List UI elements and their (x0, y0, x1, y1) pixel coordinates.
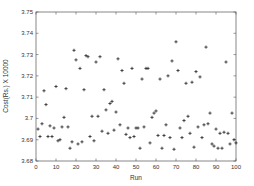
y-tick-label: 3.75 (21, 9, 33, 15)
x-tick-label: 80 (193, 164, 200, 170)
y-tick-label: 3.74 (21, 30, 33, 36)
y-tick-label: 3.7 (25, 115, 34, 121)
y-tick-label: 3.69 (21, 137, 33, 143)
x-axis-label: Run (130, 174, 142, 181)
x-tick-label: 10 (53, 164, 60, 170)
x-tick-label: 50 (133, 164, 140, 170)
plot-area (36, 12, 236, 161)
y-tick-label: 3.72 (21, 73, 33, 79)
x-tick-label: 0 (34, 164, 38, 170)
x-tick-label: 30 (93, 164, 100, 170)
x-tick-label: 60 (153, 164, 160, 170)
y-axis-label: Cost(Rs.) X 10000 (2, 59, 10, 113)
x-tick-label: 70 (173, 164, 180, 170)
y-tick-label: 3.73 (21, 52, 33, 58)
x-tick-label: 20 (73, 164, 80, 170)
x-tick-label: 100 (231, 164, 242, 170)
y-tick-label: 3.71 (21, 94, 33, 100)
x-tick-label: 90 (213, 164, 220, 170)
x-tick-label: 40 (113, 164, 120, 170)
scatter-chart: 3.683.693.73.713.723.733.743.75 01020304… (0, 0, 254, 186)
y-tick-label: 3.68 (21, 158, 33, 164)
